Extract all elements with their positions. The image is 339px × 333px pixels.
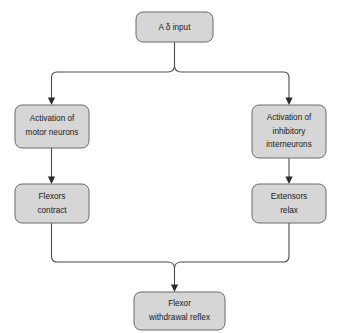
arrowhead-to-motor [48, 98, 55, 106]
node-inhibitory[interactable]: Activation of inhibitory interneurons [252, 105, 326, 158]
node-reflex-box [134, 292, 225, 330]
node-extensors-label-line2: relax [280, 206, 298, 215]
node-motor-label-line2: motor neurons [26, 128, 79, 137]
node-reflex[interactable]: Flexor withdrawal reflex [134, 292, 225, 330]
arrowhead-to-reflex [171, 285, 178, 293]
node-reflex-label-line1: Flexor [168, 299, 191, 308]
node-motor-label-line1: Activation of [30, 114, 75, 123]
node-extensors-label-line1: Extensors [271, 192, 307, 201]
node-motor-box [15, 105, 89, 148]
node-flexors-box [15, 184, 89, 223]
node-extensors[interactable]: Extensors relax [252, 184, 326, 223]
node-input[interactable]: A δ input [136, 12, 213, 42]
node-flexors-label-line2: contract [37, 206, 67, 215]
connector-split-left [52, 66, 175, 99]
node-flexors[interactable]: Flexors contract [15, 184, 89, 223]
connector-flexors-to-merge [52, 223, 175, 268]
flowchart-canvas: A δ input Activation of motor neurons Ac… [0, 0, 339, 333]
node-inhibitory-label-line2: inhibitory [273, 127, 307, 136]
node-inhibitory-label-line3: interneurons [266, 140, 312, 149]
node-extensors-box [252, 184, 326, 223]
node-reflex-label-line2: withdrawal reflex [148, 313, 210, 322]
arrowhead-to-inhibitory [285, 98, 292, 106]
node-inhibitory-label-line1: Activation of [267, 113, 312, 122]
node-input-label-line1: A δ input [159, 23, 192, 32]
flowchart-svg: A δ input Activation of motor neurons Ac… [0, 0, 339, 333]
arrowhead-to-extensors [285, 177, 292, 185]
node-flexors-label-line1: Flexors [39, 192, 66, 201]
connector-extensors-to-merge [175, 223, 290, 268]
arrowhead-to-flexors [48, 177, 55, 185]
node-motor[interactable]: Activation of motor neurons [15, 105, 89, 148]
connector-split-right [175, 66, 290, 99]
